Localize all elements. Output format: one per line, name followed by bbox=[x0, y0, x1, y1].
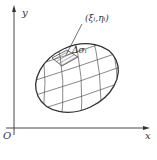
diagram-canvas bbox=[0, 0, 157, 160]
region-grid bbox=[20, 25, 140, 130]
y-axis-label: y bbox=[22, 8, 28, 18]
y-axis bbox=[12, 5, 16, 135]
area-label: Δσᵢ bbox=[72, 46, 86, 55]
point-label: (ξᵢ,ηᵢ) bbox=[85, 14, 109, 23]
origin-label: O bbox=[3, 131, 11, 141]
x-axis-label: x bbox=[145, 131, 151, 141]
x-axis bbox=[6, 126, 150, 130]
